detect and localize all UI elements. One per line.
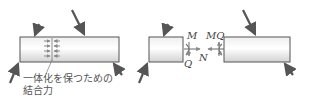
label-normal: N xyxy=(199,52,208,63)
cut-beam-right-part xyxy=(224,10,293,75)
cut-beam-left-part xyxy=(139,24,183,83)
caption-line-2: 結合力 xyxy=(23,85,113,97)
label-moment-left: M xyxy=(187,30,197,41)
label-moment-shear-right: MQ xyxy=(206,30,224,41)
label-shear-left: Q xyxy=(184,58,192,69)
caption-line-1: 一体化を保つための xyxy=(23,73,113,85)
binding-force-caption: 一体化を保つための 結合力 xyxy=(23,73,113,97)
